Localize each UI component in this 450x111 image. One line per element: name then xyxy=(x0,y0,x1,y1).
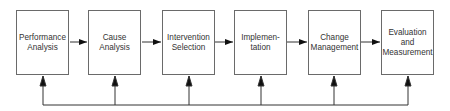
step-label: Intervention Selection xyxy=(167,33,210,53)
feedback-arrows xyxy=(40,76,411,105)
step-intervention-selection: Intervention Selection xyxy=(162,10,215,75)
step-label: Cause Analysis xyxy=(99,33,130,53)
step-change-management: Change Management xyxy=(308,10,361,75)
step-performance-analysis: Performance Analysis xyxy=(16,10,69,75)
step-cause-analysis: Cause Analysis xyxy=(88,10,141,75)
step-label: Change Management xyxy=(311,33,359,53)
step-label: Evaluation and Measurement xyxy=(382,28,432,58)
step-label: Implemen- tation xyxy=(241,33,280,53)
step-label: Performance Analysis xyxy=(19,33,66,53)
step-evaluation-measurement: Evaluation and Measurement xyxy=(381,10,434,75)
step-implementation: Implemen- tation xyxy=(234,10,287,75)
